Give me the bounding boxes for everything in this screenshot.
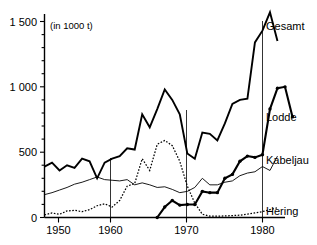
y-tick-label-1000: 1 000 (9, 81, 37, 93)
data-point-marker (261, 153, 264, 156)
series-line-hering (45, 140, 278, 216)
series-label-kabeljau: Kabeljau (266, 154, 309, 166)
data-point-marker (201, 190, 204, 193)
data-point-marker (276, 86, 279, 89)
x-tick-label-1970: 1970 (174, 224, 198, 236)
series-group (45, 12, 295, 219)
chart-canvas: 1 500 1 000 500 0 (in 1000 t) 1950 1960 … (0, 0, 317, 245)
decade-gridlines (111, 21, 263, 218)
series-line-gesamt (45, 12, 278, 178)
data-point-marker (238, 160, 241, 163)
fishery-catch-line-chart: 1 500 1 000 500 0 (in 1000 t) 1950 1960 … (0, 0, 317, 245)
data-point-marker (223, 177, 226, 180)
data-point-marker (208, 191, 211, 194)
y-tick-label-500: 500 (19, 146, 37, 158)
series-markers-lodde (156, 85, 295, 219)
data-point-marker (283, 85, 286, 88)
x-tick-label-1950: 1950 (46, 224, 70, 236)
data-point-marker (171, 199, 174, 202)
data-point-marker (246, 154, 249, 157)
series-label-hering: Hering (266, 205, 298, 217)
units-annotation: (in 1000 t) (50, 20, 93, 31)
data-point-marker (186, 203, 189, 206)
x-axis-ticks (59, 218, 263, 223)
x-tick-label-1980: 1980 (250, 224, 274, 236)
series-label-gesamt: Gesamt (266, 20, 305, 32)
x-tick-label-1960: 1960 (98, 224, 122, 236)
data-point-marker (178, 203, 181, 206)
series-label-lodde: Lodde (266, 111, 297, 123)
y-tick-label-0: 0 (31, 212, 37, 224)
data-point-marker (193, 203, 196, 206)
data-point-marker (216, 191, 219, 194)
y-tick-label-1500: 1 500 (9, 16, 37, 28)
data-point-marker (253, 156, 256, 159)
data-point-marker (231, 173, 234, 176)
data-point-marker (163, 205, 166, 208)
series-line-lodde (157, 87, 292, 218)
data-point-marker (156, 216, 159, 219)
